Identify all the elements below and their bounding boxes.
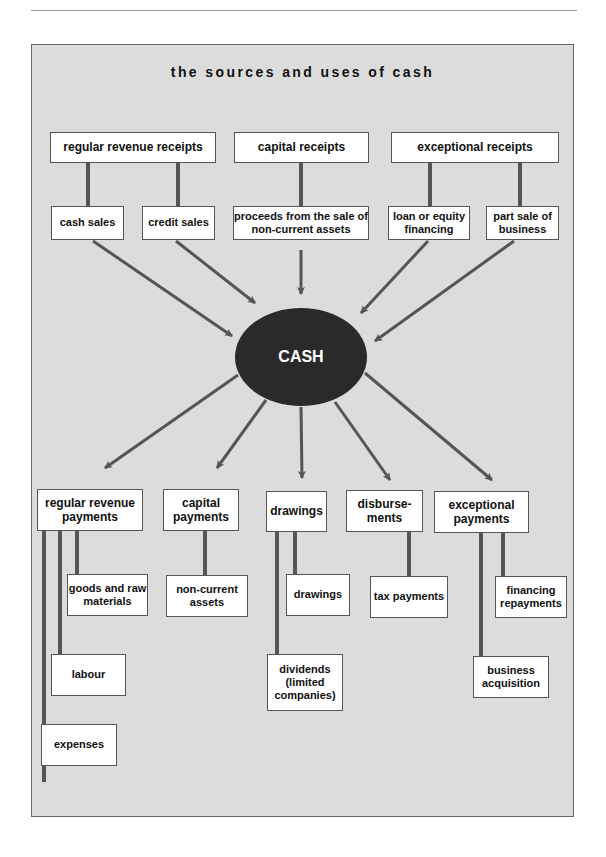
use-item-dividends: dividends (limited companies) <box>267 654 343 711</box>
box-label: capital payments <box>164 496 238 525</box>
source-item-loan-equity: loan or equity financing <box>388 206 470 240</box>
box-label: business acquisition <box>474 664 548 690</box>
box-label: expenses <box>54 738 104 751</box>
box-label: proceeds from the sale of non-current as… <box>234 210 368 236</box>
box-label: financing repayments <box>496 584 566 610</box>
box-label: part sale of business <box>487 210 558 236</box>
use-disbursements: disburse-ments <box>346 490 423 532</box>
box-label: labour <box>72 668 106 681</box>
box-label: cash sales <box>60 216 116 229</box>
source-item-credit-sales: credit sales <box>142 206 215 240</box>
box-label: regular revenue payments <box>38 496 142 525</box>
box-label: drawings <box>294 588 342 601</box>
box-label: regular revenue receipts <box>63 140 202 154</box>
use-capital-payments: capital payments <box>163 489 239 531</box>
box-label: exceptional payments <box>435 498 528 527</box>
source-item-part-sale: part sale of business <box>486 206 559 240</box>
source-exceptional-receipts: exceptional receipts <box>391 132 559 163</box>
box-label: loan or equity financing <box>389 210 469 236</box>
cash-node: CASH <box>235 308 367 406</box>
use-item-financing-repayments: financing repayments <box>495 576 567 618</box>
use-drawings: drawings <box>266 491 327 532</box>
use-item-labour: labour <box>51 654 126 696</box>
box-label: tax payments <box>374 590 444 603</box>
use-item-business-acquisition: business acquisition <box>473 656 549 698</box>
box-label: exceptional receipts <box>417 140 532 154</box>
box-label: disburse-ments <box>347 497 422 526</box>
box-label: dividends (limited companies) <box>268 663 342 703</box>
use-regular-revenue-payments: regular revenue payments <box>37 489 143 531</box>
box-label: credit sales <box>148 216 209 229</box>
cash-label: CASH <box>278 348 323 366</box>
use-exceptional-payments: exceptional payments <box>434 491 529 533</box>
source-capital-receipts: capital receipts <box>234 132 369 163</box>
box-label: capital receipts <box>258 140 345 154</box>
box-label: non-current assets <box>167 583 247 609</box>
source-item-cash-sales: cash sales <box>51 206 124 240</box>
use-item-expenses: expenses <box>41 724 117 766</box>
use-item-tax-payments: tax payments <box>370 576 448 618</box>
box-label: drawings <box>270 504 323 518</box>
source-item-proceeds-sale-assets: proceeds from the sale of non-current as… <box>233 206 369 240</box>
use-item-drawings: drawings <box>286 574 350 616</box>
source-regular-revenue-receipts: regular revenue receipts <box>50 132 216 163</box>
use-item-goods-raw-materials: goods and raw materials <box>67 574 148 616</box>
box-label: goods and raw materials <box>68 582 147 608</box>
use-item-non-current-assets: non-current assets <box>166 575 248 617</box>
